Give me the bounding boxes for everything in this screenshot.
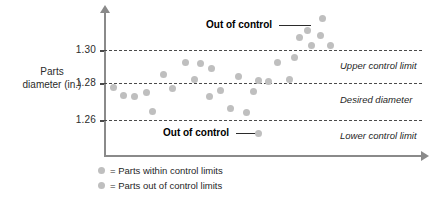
data-point-within-4 [143, 89, 150, 96]
control-chart-figure: 1.30 1.28 1.26 Parts diameter (in.) Uppe… [0, 0, 445, 204]
data-point-within-22 [291, 54, 298, 61]
x-axis-line [104, 155, 422, 157]
data-point-out-24 [304, 27, 311, 34]
data-point-out-25 [308, 42, 315, 49]
y-tick-mark-128 [100, 83, 104, 85]
data-point-out-26 [319, 15, 326, 22]
legend-dot-within-icon [98, 167, 105, 174]
data-point-within-7 [169, 85, 176, 92]
desired-diameter-line [104, 83, 422, 84]
data-point-within-1 [110, 84, 117, 91]
out-of-control-leader-bottom [236, 133, 256, 134]
data-point-within-21 [286, 76, 293, 83]
data-point-within-20 [274, 59, 281, 66]
y-axis-title: Parts diameter (in.) [6, 65, 98, 91]
data-point-within-14 [227, 105, 234, 112]
lower-control-limit-label: Lower control limit [340, 130, 417, 141]
data-point-within-10 [197, 60, 204, 67]
y-tick-label-126: 1.26 [64, 114, 96, 125]
data-point-within-12 [206, 93, 213, 100]
out-of-control-label-top: Out of control [206, 19, 272, 30]
desired-diameter-label: Desired diameter [340, 94, 412, 105]
out-of-control-leader-top [279, 25, 311, 26]
data-point-within-19 [265, 78, 272, 85]
data-point-out-28 [327, 42, 334, 49]
legend-item-outside: = Parts out of control limits [98, 178, 223, 193]
legend-label-within: = Parts within control limits [110, 165, 223, 176]
data-point-within-5 [149, 108, 156, 115]
data-point-within-13 [217, 87, 224, 94]
data-point-within-11 [208, 65, 215, 72]
upper-control-limit-line [104, 50, 422, 51]
data-point-within-2 [120, 92, 127, 99]
data-point-within-17 [250, 88, 257, 95]
y-axis-line [104, 12, 106, 157]
out-of-control-label-bottom: Out of control [163, 127, 229, 138]
y-tick-mark-126 [100, 120, 104, 122]
data-point-out-29 [255, 130, 262, 137]
upper-control-limit-label: Upper control limit [340, 60, 417, 71]
data-point-within-18 [255, 77, 262, 84]
data-point-out-23 [296, 34, 303, 41]
legend: = Parts within control limits = Parts ou… [98, 163, 223, 193]
y-axis-title-line-1: Parts [6, 65, 98, 78]
data-point-within-3 [131, 93, 138, 100]
legend-item-within: = Parts within control limits [98, 163, 223, 178]
data-point-within-16 [243, 109, 250, 116]
y-tick-mark-130 [100, 50, 104, 52]
lower-control-limit-line [104, 120, 422, 121]
data-point-within-9 [191, 76, 198, 83]
y-axis-title-line-2: diameter (in.) [6, 78, 98, 91]
data-point-within-15 [235, 73, 242, 80]
data-point-out-27 [317, 32, 324, 39]
y-tick-label-130: 1.30 [64, 44, 96, 55]
legend-label-outside: = Parts out of control limits [110, 180, 222, 191]
data-point-within-6 [160, 71, 167, 78]
data-point-within-8 [182, 59, 189, 66]
legend-dot-outside-icon [98, 182, 105, 189]
x-axis-arrow-icon [421, 151, 429, 161]
